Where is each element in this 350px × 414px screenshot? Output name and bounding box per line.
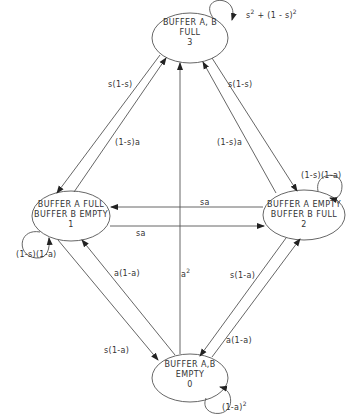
edge-1-to-2-label: sa (136, 229, 146, 238)
node-3-label: BUFFER A, B FULL 3 (152, 18, 228, 48)
self-loop-3-label: s2 + (1 - s)2 (246, 8, 297, 20)
edge-0-to-1 (82, 240, 175, 355)
node-1-label: BUFFER A FULL BUFFER B EMPTY 1 (32, 200, 110, 230)
self-loop-1-label: (1-s)(1-a) (16, 250, 57, 259)
edge-2-to-3-label: (1-s)a (217, 138, 242, 147)
node-0-label: BUFFER A,B EMPTY 0 (152, 360, 228, 390)
edge-2-to-0-label: s(1-a) (230, 271, 255, 280)
self-loop-0-label: (1-a)2 (222, 400, 247, 412)
edge-1-to-3 (74, 58, 166, 192)
edge-0-to-1-label: a(1-a) (114, 269, 140, 278)
edge-3-to-2-label: s(1-s) (228, 80, 252, 89)
node-2-label: BUFFER A EMPTY BUFFER B FULL 2 (262, 200, 346, 230)
edge-1-to-0-label: s(1-a) (104, 346, 129, 355)
self-loop-2-label: (1-s)(1-a) (301, 171, 342, 180)
edge-1-to-0 (58, 240, 158, 360)
edge-0-to-2-label: a(1-a) (226, 336, 252, 345)
edge-0-to-3-label: a2 (181, 267, 190, 279)
edge-3-to-1 (57, 55, 160, 193)
edge-3-to-2 (212, 58, 297, 191)
edge-3-to-1-label: s(1-s) (108, 80, 132, 89)
edge-2-to-1-label: sa (200, 198, 210, 207)
edge-1-to-3-label: (1-s)a (115, 138, 140, 147)
